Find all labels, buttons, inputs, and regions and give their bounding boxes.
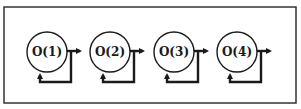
feedback-diagram: O(1) O(2) O(3) O(4)	[0, 0, 301, 109]
node-label: O(1)	[32, 45, 62, 59]
node-label: O(4)	[222, 45, 252, 59]
node-4: O(4)	[217, 32, 270, 82]
node-3: O(3)	[154, 32, 207, 82]
node-label: O(3)	[159, 45, 189, 59]
node-1: O(1)	[27, 32, 80, 82]
node-2: O(2)	[90, 32, 143, 82]
node-label: O(2)	[95, 45, 125, 59]
